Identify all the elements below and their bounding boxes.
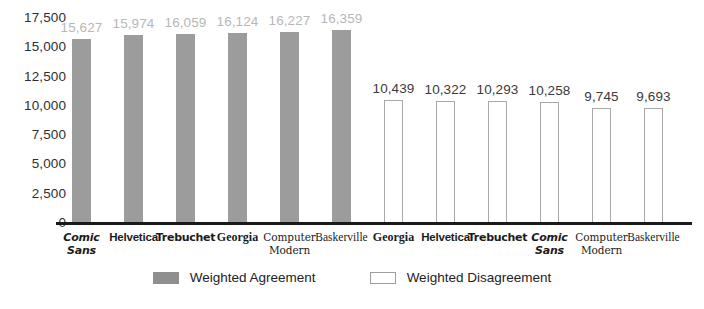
bar[interactable]: [280, 32, 299, 222]
bar[interactable]: [72, 39, 91, 222]
bar-value-label: 10,258: [529, 83, 571, 98]
x-axis-category-label: Baskerville: [623, 231, 685, 244]
bar-value-label: 9,745: [584, 89, 618, 104]
bar[interactable]: [540, 102, 559, 222]
y-axis: 17,50015,00012,50010,0007,5005,0002,5000: [0, 0, 66, 309]
bar-value-label: 10,439: [373, 81, 415, 96]
legend-label: Weighted Agreement: [190, 270, 316, 285]
bar-value-label: 15,974: [113, 16, 155, 31]
category-label-line: Modern: [259, 244, 321, 257]
y-axis-tick-label: 17,500: [4, 10, 66, 25]
bar-group[interactable]: 9,693Baskerville: [643, 0, 695, 309]
bar-group[interactable]: 16,124Georgia: [227, 0, 279, 309]
bar-value-label: 15,627: [61, 20, 103, 35]
y-axis-tick-label: 15,000: [4, 39, 66, 54]
bar[interactable]: [592, 108, 611, 222]
bar-group[interactable]: 16,359Baskerville: [331, 0, 383, 309]
bar-group[interactable]: 9,745ComputerModern: [591, 0, 643, 309]
bar[interactable]: [436, 101, 455, 222]
y-axis-tick-label: 2,500: [4, 185, 66, 200]
bar-value-label: 10,293: [477, 82, 519, 97]
plot-area: 15,627ComicSans15,974Helvetica16,059Treb…: [70, 0, 704, 309]
bar-group[interactable]: 10,322Helvetica: [435, 0, 487, 309]
bar-value-label: 10,322: [425, 82, 467, 97]
category-label-line: Baskerville: [623, 231, 685, 244]
bar[interactable]: [124, 35, 143, 222]
bar-value-label: 16,227: [269, 13, 311, 28]
bar-value-label: 9,693: [636, 89, 670, 104]
bar[interactable]: [488, 101, 507, 222]
bar-group[interactable]: 10,293Trebuchet: [487, 0, 539, 309]
bar-chart: 17,50015,00012,50010,0007,5005,0002,5000…: [0, 0, 704, 309]
legend-label: Weighted Disagreement: [407, 270, 552, 285]
bar[interactable]: [332, 30, 351, 222]
y-axis-tick-label: 12,500: [4, 68, 66, 83]
y-axis-tick-label: 7,500: [4, 127, 66, 142]
bar[interactable]: [384, 100, 403, 222]
bar-group[interactable]: 16,059Trebuchet: [175, 0, 227, 309]
bar[interactable]: [176, 34, 195, 222]
bar-value-label: 16,059: [165, 15, 207, 30]
bar[interactable]: [644, 108, 663, 222]
bar-value-label: 16,124: [217, 14, 259, 29]
legend-swatch-hollow: [370, 272, 396, 284]
category-label-line: Modern: [571, 244, 633, 257]
bar-group[interactable]: 16,227ComputerModern: [279, 0, 331, 309]
bar-group[interactable]: 15,627ComicSans: [71, 0, 123, 309]
category-label-line: Sans: [51, 244, 113, 257]
bar-group[interactable]: 10,439Georgia: [383, 0, 435, 309]
bar[interactable]: [228, 33, 247, 222]
legend-item[interactable]: Weighted Agreement: [153, 270, 316, 285]
bar-group[interactable]: 15,974Helvetica: [123, 0, 175, 309]
chart-legend: Weighted AgreementWeighted Disagreement: [0, 270, 704, 285]
legend-item[interactable]: Weighted Disagreement: [370, 270, 552, 285]
bar-group[interactable]: 10,258ComicSans: [539, 0, 591, 309]
bar-value-label: 16,359: [321, 11, 363, 26]
y-axis-tick-label: 10,000: [4, 97, 66, 112]
legend-swatch-solid: [153, 272, 179, 284]
y-axis-tick-label: 5,000: [4, 156, 66, 171]
